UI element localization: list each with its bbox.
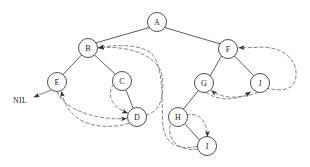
node-e[interactable]: E (48, 73, 67, 92)
node-d-label: D (134, 113, 140, 122)
node-f-label: F (226, 45, 231, 54)
tree-edge-a-b (96, 28, 150, 44)
node-h[interactable]: H (169, 108, 188, 127)
node-b-label: B (85, 44, 90, 53)
node-d[interactable]: D (128, 108, 147, 127)
node-h-label: H (175, 113, 181, 122)
thread-d-to-e (62, 92, 130, 127)
thread-i-to-b (99, 46, 197, 148)
tree-edge-a-f (165, 28, 221, 45)
tree-diagram-canvas: A B F E C G J (0, 0, 310, 167)
nil-label: NIL (13, 96, 27, 105)
thread-e-to-nil (34, 90, 53, 98)
node-a[interactable]: A (148, 13, 167, 32)
node-j-label: J (258, 79, 261, 88)
thread-h-to-i (187, 114, 208, 136)
node-a-label: A (154, 18, 160, 27)
node-i[interactable]: I (198, 137, 217, 156)
node-e-label: E (55, 78, 60, 87)
tree-edge-c-d (126, 90, 133, 108)
tree-edge-b-e (63, 55, 82, 75)
node-j[interactable]: J (251, 74, 270, 93)
thread-j-to-g (212, 91, 259, 98)
threaded-binary-search-tree-svg: A B F E C G J (0, 0, 310, 167)
thread-g-to-j (206, 92, 251, 99)
node-i-label: I (206, 142, 209, 151)
thread-e-to-d (58, 92, 127, 119)
tree-edge-f-g (211, 56, 222, 76)
node-g-label: G (201, 79, 207, 88)
node-g[interactable]: G (195, 74, 214, 93)
thread-edges-group (34, 46, 296, 150)
node-b[interactable]: B (79, 39, 98, 58)
node-c-label: C (119, 77, 124, 86)
tree-edge-b-c (95, 55, 116, 75)
node-c[interactable]: C (113, 72, 132, 91)
tree-edge-f-j (235, 56, 254, 76)
tree-edge-h-i (185, 124, 200, 140)
node-f[interactable]: F (219, 40, 238, 59)
tree-edge-g-h (184, 91, 199, 110)
